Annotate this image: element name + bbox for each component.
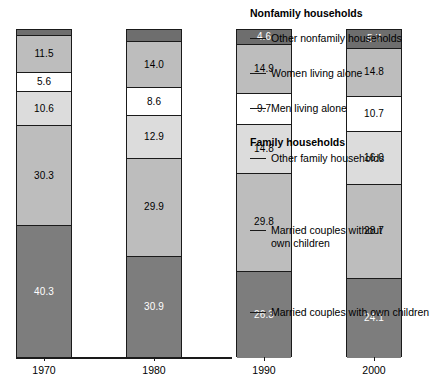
- segment-value-label: 8.6: [147, 97, 161, 107]
- plot-area: 1.711.55.610.630.340.33.614.08.612.929.9…: [0, 0, 240, 390]
- leader-line-icon: [250, 312, 266, 313]
- bar-segment: 10.6: [17, 92, 71, 127]
- callout-married-without-children: Married couples without own children: [250, 224, 382, 249]
- bar-segment: 3.6: [127, 30, 181, 42]
- leader-line-icon: [250, 108, 266, 109]
- bar-segment: 30.3: [17, 126, 71, 225]
- callout-label: Other nonfamily households: [271, 32, 402, 45]
- bar-segment: 5.6: [17, 73, 71, 91]
- leader-line-icon: [250, 158, 266, 159]
- callout-women-living-alone: Women living alone: [250, 67, 362, 80]
- axis-tick: [44, 357, 45, 361]
- axis-year-label-1970: 1970: [6, 364, 82, 376]
- stacked-bar: 1.711.55.610.630.340.3: [16, 29, 72, 357]
- bar-column-1970: 1.711.55.610.630.340.3: [16, 29, 72, 357]
- segment-value-label: 30.9: [144, 302, 164, 312]
- stacked-bar: 3.614.08.612.929.930.9: [126, 29, 182, 357]
- segment-value-label: 30.3: [34, 171, 54, 181]
- segment-value-label: 10.6: [34, 104, 54, 114]
- bar-segment: 29.9: [127, 159, 181, 257]
- callout-other-nonfamily: Other nonfamily households: [250, 32, 402, 45]
- bar-segment: 30.9: [127, 257, 181, 358]
- callout-label: Other family households: [271, 152, 384, 165]
- stacked-bar-chart: 1.711.55.610.630.340.33.614.08.612.929.9…: [0, 0, 433, 390]
- callout-label: Married couples without own children: [271, 224, 382, 249]
- bar-segment: 11.5: [17, 36, 71, 74]
- segment-value-label: 40.3: [34, 287, 54, 297]
- bar-segment: 8.6: [127, 88, 181, 116]
- leader-line-icon: [250, 73, 266, 74]
- axis-year-label-1980: 1980: [116, 364, 192, 376]
- callout-label: Women living alone: [271, 67, 362, 80]
- segment-value-label: 5.6: [37, 77, 51, 87]
- bar-segment: 40.3: [17, 226, 71, 358]
- segment-value-label: 11.5: [34, 49, 53, 59]
- group-heading-nonfamily: Nonfamily households: [250, 7, 363, 19]
- segment-value-label: 29.9: [144, 202, 164, 212]
- group-heading-family: Family households: [250, 136, 345, 148]
- bar-segment: 12.9: [127, 116, 181, 158]
- x-axis-line: [16, 357, 232, 359]
- callout-label: Married couples with own children: [271, 306, 429, 319]
- callout-other-family: Other family households: [250, 152, 384, 165]
- callout-married-with-children: Married couples with own children: [250, 306, 429, 319]
- callout-legend: Nonfamily households Other nonfamily hou…: [240, 0, 433, 390]
- bar-column-1980: 3.614.08.612.929.930.9: [126, 29, 182, 357]
- segment-value-label: 12.9: [144, 132, 164, 142]
- segment-value-label: 14.0: [144, 60, 164, 70]
- leader-line-icon: [250, 230, 266, 231]
- leader-line-icon: [250, 38, 266, 39]
- callout-label: Men living alone: [271, 102, 347, 115]
- axis-tick: [154, 357, 155, 361]
- callout-men-living-alone: Men living alone: [250, 102, 347, 115]
- bar-segment: 14.0: [127, 42, 181, 88]
